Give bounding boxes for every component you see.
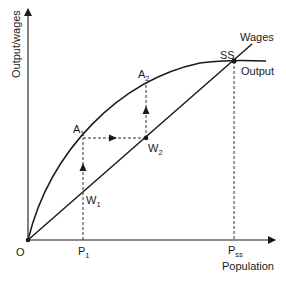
ss-label: SS [220,49,235,61]
wages-label: Wages [240,31,274,43]
a1-label: A1 [73,123,85,138]
p1-label: P1 [78,245,90,260]
a2-label: A2 [138,68,150,83]
x-axis-label: Population [222,260,274,272]
pss-label: Pss [228,244,243,259]
w2-point [144,136,149,141]
w2-label: W2 [148,142,163,157]
origin-point [26,238,31,243]
malthus-diagram: Output/wages Population O Wages Output S… [0,0,286,282]
y-axis-label: Output/wages [10,10,22,78]
output-curve [28,60,266,240]
w1-label: W1 [86,194,101,209]
arrow-up-w1-a1 [80,163,87,171]
arrow-right-a1-w2 [109,135,117,142]
arrow-up-w2-a2 [143,106,150,114]
origin-label: O [16,246,25,258]
output-label: Output [241,65,274,77]
